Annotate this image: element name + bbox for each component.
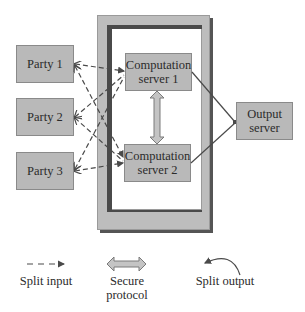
legend-split-output-text: Split output [196, 274, 255, 288]
party-3-node: Party 3 [16, 152, 74, 190]
output-server-label-line1: Output [247, 107, 282, 121]
party-2-label: Party 2 [27, 110, 63, 124]
computation-server-1-node: Computation server 1 [125, 53, 192, 91]
computation-server-1-label-line1: Computation [126, 58, 191, 72]
output-server-label-line2: server [249, 121, 280, 135]
party-2-node: Party 2 [16, 98, 74, 136]
legend-split-output-label: Split output [190, 274, 260, 288]
legend-split-input-text: Split input [20, 274, 72, 288]
computation-server-1-label-line2: server 1 [139, 72, 179, 86]
mpc-architecture-diagram: Party 1 Party 2 Party 3 Computation serv… [0, 0, 305, 312]
legend-secure-protocol-line1: Secure [100, 274, 154, 288]
party-1-label: Party 1 [27, 57, 63, 71]
legend-secure-protocol-line2: protocol [100, 288, 154, 302]
computation-server-2-label-line2: server 2 [138, 163, 178, 177]
party-3-label: Party 3 [27, 164, 63, 178]
curved-arrow-icon [205, 259, 240, 275]
legend-split-input-label: Split input [18, 274, 74, 288]
computation-server-2-node: Computation server 2 [124, 144, 191, 182]
output-server-node: Output server [236, 102, 293, 140]
party-1-node: Party 1 [16, 45, 74, 83]
double-arrow-icon [107, 257, 146, 271]
computation-server-2-label-line1: Computation [125, 149, 190, 163]
legend-secure-protocol-label: Secure protocol [100, 274, 154, 302]
